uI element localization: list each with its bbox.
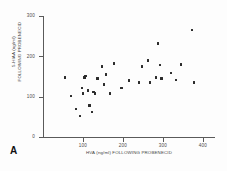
y-tick-100 [39, 97, 43, 98]
x-tick-300 [163, 138, 164, 142]
data-point [193, 81, 195, 83]
data-point [94, 92, 96, 94]
x-tick-label-200: 200 [113, 143, 133, 149]
figure-panel: 0100200300100200300400 5-HIAA (ng/ml) FO… [0, 0, 227, 171]
x-tick-400 [203, 138, 204, 142]
y-axis-line [43, 16, 44, 138]
data-point [79, 115, 81, 117]
x-tick-label-400: 400 [193, 143, 213, 149]
data-point [101, 65, 103, 67]
data-point [70, 95, 72, 97]
data-point [159, 64, 161, 66]
panel-label: A [10, 145, 17, 156]
data-point [105, 73, 107, 75]
data-point [91, 111, 93, 113]
data-point [141, 65, 143, 67]
data-point [180, 63, 182, 65]
x-tick-200 [123, 138, 124, 142]
y-tick-300 [39, 16, 43, 17]
data-point [175, 79, 177, 81]
y-axis-title-line2: FOLLOWING PROBENECID [17, 14, 23, 90]
data-point [191, 29, 193, 31]
data-point [170, 72, 172, 74]
x-axis-title: HVA (ng/ml) FOLLOWING PROBENECID [43, 150, 215, 155]
y-tick-label-100: 100 [19, 94, 35, 100]
data-point [87, 89, 89, 91]
y-axis-title: 5-HIAA (ng/ml) FOLLOWING PROBENECID [11, 14, 22, 90]
data-point [147, 59, 149, 61]
data-point [96, 77, 98, 79]
data-point [138, 81, 140, 83]
data-point [64, 76, 66, 78]
data-point [157, 42, 159, 44]
data-point [88, 104, 90, 106]
x-tick-label-100: 100 [73, 143, 93, 149]
data-point [82, 92, 84, 94]
y-tick-200 [39, 56, 43, 57]
data-point [109, 92, 111, 94]
data-point [120, 87, 122, 89]
data-point [75, 108, 77, 110]
data-point [103, 83, 105, 85]
data-point [160, 77, 162, 79]
data-point [81, 87, 83, 89]
data-point [149, 81, 151, 83]
data-point [84, 75, 86, 77]
x-tick-label-300: 300 [153, 143, 173, 149]
x-tick-100 [83, 138, 84, 142]
data-point [113, 62, 115, 64]
y-tick-0 [39, 137, 43, 138]
data-point [128, 79, 130, 81]
data-point [155, 76, 157, 78]
y-tick-label-0: 0 [19, 134, 35, 140]
x-axis-line [43, 137, 215, 138]
